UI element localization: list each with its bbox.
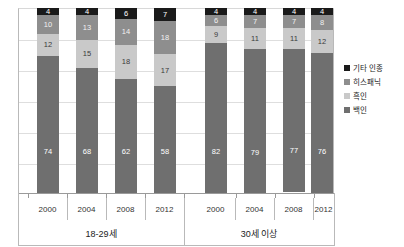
year-separator: [145, 198, 146, 220]
segment-other: 4: [205, 8, 227, 15]
group-separator: [184, 220, 185, 246]
segment-hispanic: 8: [311, 15, 333, 30]
year-separator: [106, 198, 107, 220]
segment-hispanic: 13: [76, 15, 98, 39]
bar-30세 이상-2000: 46982: [205, 8, 227, 194]
segment-value-label: 18: [161, 34, 169, 42]
segment-value-label: 8: [320, 19, 324, 27]
segment-value-label: 17: [161, 67, 169, 75]
segment-hispanic: 7: [283, 15, 305, 28]
chart-legend: 기타 인종히스패닉흑인백인: [344, 62, 404, 115]
segment-value-label: 74: [44, 148, 52, 156]
bar-30세 이상-2008: 471177: [283, 8, 305, 194]
legend-item-0[interactable]: 기타 인종: [344, 62, 404, 73]
segment-value-label: 68: [83, 148, 91, 156]
segment-value-label: 77: [290, 147, 298, 155]
year-separator: [235, 198, 236, 220]
segment-hispanic: 14: [115, 19, 137, 45]
bar-30세 이상-2004: 471179: [244, 8, 266, 194]
segment-black: 15: [76, 40, 98, 68]
segment-value-label: 4: [253, 8, 257, 15]
segment-black: 12: [311, 30, 333, 52]
segment-value-label: 10: [44, 21, 52, 29]
segment-value-label: 12: [44, 41, 52, 49]
segment-white: 58: [154, 86, 176, 194]
legend-label: 히스패닉: [353, 76, 381, 87]
year-separator: [67, 198, 68, 220]
segment-value-label: 79: [251, 149, 259, 157]
legend-label: 백인: [353, 104, 367, 115]
year-label-row: 20002004200820122000200420082012: [18, 198, 334, 220]
segment-white: 77: [283, 49, 305, 192]
group-label-0: 18-29세: [18, 220, 184, 246]
legend-item-1[interactable]: 히스패닉: [344, 76, 404, 87]
segment-hispanic: 6: [205, 15, 227, 26]
segment-value-label: 4: [214, 8, 218, 15]
segment-other: 7: [154, 8, 176, 21]
year-label-3: 2012: [145, 198, 184, 220]
stacked-bar-chart: 4101274413156861418627181758469824711794…: [0, 0, 404, 247]
bar-18-29세-2004: 4131568: [76, 8, 98, 194]
segment-black: 18: [115, 45, 137, 78]
legend-swatch-icon: [344, 93, 350, 99]
segment-value-label: 62: [122, 148, 130, 156]
segment-value-label: 12: [318, 38, 326, 46]
legend-swatch-icon: [344, 107, 350, 113]
segment-black: 11: [283, 28, 305, 48]
year-label-7: 2012: [313, 198, 334, 220]
segment-value-label: 7: [253, 18, 257, 26]
segment-value-label: 58: [161, 148, 169, 156]
segment-other: 4: [76, 8, 98, 15]
year-label-4: 2000: [196, 198, 235, 220]
year-label-0: 2000: [28, 198, 67, 220]
legend-swatch-icon: [344, 79, 350, 85]
segment-value-label: 4: [46, 8, 50, 15]
segment-other: 4: [244, 8, 266, 15]
segment-other: 4: [37, 8, 59, 15]
segment-value-label: 9: [214, 31, 218, 39]
legend-label: 기타 인종: [353, 62, 383, 73]
bar-18-29세-2000: 4101274: [37, 8, 59, 194]
segment-value-label: 4: [85, 8, 89, 15]
segment-value-label: 6: [214, 17, 218, 25]
legend-item-2[interactable]: 흑인: [344, 90, 404, 101]
segment-white: 74: [37, 56, 59, 194]
segment-hispanic: 18: [154, 21, 176, 54]
segment-value-label: 13: [83, 24, 91, 32]
segment-black: 9: [205, 26, 227, 43]
segment-white: 68: [76, 68, 98, 194]
legend-item-3[interactable]: 백인: [344, 104, 404, 115]
segment-value-label: 4: [292, 8, 296, 15]
year-label-2: 2008: [106, 198, 145, 220]
bar-18-29세-2012: 7181758: [154, 8, 176, 194]
segment-black: 17: [154, 54, 176, 86]
year-separator: [313, 198, 314, 220]
year-separator: [184, 198, 185, 220]
segment-other: 6: [115, 8, 137, 19]
legend-swatch-icon: [344, 65, 350, 71]
segment-value-label: 11: [251, 35, 259, 43]
group-label-1: 30세 이상: [184, 220, 334, 246]
segment-black: 12: [37, 34, 59, 56]
segment-value-label: 4: [320, 8, 324, 15]
year-label-6: 2008: [274, 198, 313, 220]
bar-30세 이상-2012: 481276: [311, 8, 333, 194]
segment-hispanic: 7: [244, 15, 266, 28]
frame-bottom: [18, 245, 334, 246]
segment-white: 82: [205, 43, 227, 194]
segment-white: 79: [244, 49, 266, 195]
group-label-row: 18-29세30세 이상: [18, 220, 334, 246]
year-separator: [274, 198, 275, 220]
segment-value-label: 14: [122, 28, 130, 36]
segment-value-label: 7: [163, 11, 167, 19]
segment-value-label: 76: [318, 148, 326, 156]
year-label-5: 2004: [235, 198, 274, 220]
year-label-1: 2004: [67, 198, 106, 220]
frame-right-lower: [334, 193, 335, 246]
segment-white: 76: [311, 53, 333, 194]
segment-value-label: 18: [122, 58, 130, 66]
segment-other: 4: [311, 8, 333, 15]
segment-value-label: 82: [212, 148, 220, 156]
segment-value-label: 11: [290, 35, 298, 43]
bar-18-29세-2008: 6141862: [115, 8, 137, 194]
